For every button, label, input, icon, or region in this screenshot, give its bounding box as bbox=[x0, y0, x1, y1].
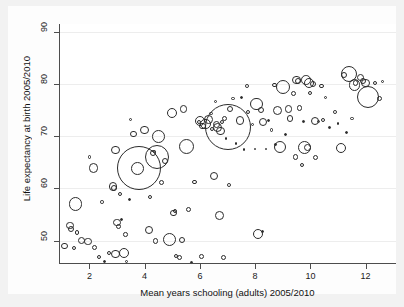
y-tick-label-60: 60 bbox=[39, 178, 49, 188]
data-point bbox=[240, 96, 243, 99]
data-point bbox=[317, 120, 320, 123]
data-point bbox=[285, 105, 293, 113]
data-point bbox=[215, 211, 224, 220]
chart-screenshot: 5060708090 24681012 Life expectancy at b… bbox=[0, 0, 404, 307]
data-point bbox=[111, 146, 119, 154]
data-point bbox=[116, 224, 122, 230]
x-tick-label-4: 4 bbox=[133, 271, 157, 281]
data-point bbox=[308, 91, 312, 95]
data-point bbox=[300, 163, 304, 167]
data-point bbox=[236, 116, 244, 124]
data-point bbox=[267, 119, 270, 122]
data-point bbox=[68, 226, 74, 232]
data-point bbox=[336, 143, 346, 153]
data-point bbox=[153, 238, 158, 243]
data-point bbox=[313, 155, 318, 160]
y-tick-label-90: 90 bbox=[39, 22, 49, 32]
x-tick-2 bbox=[89, 264, 90, 269]
data-point bbox=[145, 145, 169, 169]
data-point bbox=[274, 141, 286, 153]
data-point bbox=[186, 207, 191, 212]
y-tick-80 bbox=[54, 84, 59, 85]
data-point bbox=[295, 78, 301, 84]
data-point bbox=[319, 84, 324, 89]
data-point bbox=[276, 80, 290, 94]
data-point bbox=[163, 233, 176, 246]
x-tick-8 bbox=[255, 264, 256, 269]
data-point bbox=[381, 80, 384, 83]
data-point bbox=[123, 232, 128, 237]
gridline-y-90 bbox=[59, 32, 396, 33]
data-point bbox=[129, 118, 132, 121]
data-point bbox=[265, 148, 268, 151]
data-point bbox=[345, 131, 348, 134]
data-point bbox=[377, 96, 382, 101]
data-point bbox=[310, 81, 316, 87]
data-point bbox=[270, 128, 274, 132]
data-point bbox=[179, 139, 194, 154]
data-point bbox=[221, 255, 226, 260]
data-point bbox=[235, 142, 238, 145]
y-tick-70 bbox=[54, 136, 59, 137]
x-tick-4 bbox=[145, 264, 146, 269]
y-tick-50 bbox=[54, 241, 59, 242]
x-tick-12 bbox=[366, 264, 367, 269]
data-point bbox=[291, 91, 296, 96]
data-point bbox=[148, 195, 152, 199]
y-axis-line bbox=[59, 24, 60, 264]
data-point bbox=[251, 123, 254, 126]
data-point bbox=[293, 154, 298, 159]
data-point bbox=[118, 192, 122, 196]
data-point bbox=[210, 172, 218, 180]
data-point bbox=[119, 248, 129, 258]
data-point bbox=[111, 185, 117, 191]
gridline-y-80 bbox=[59, 84, 396, 85]
y-tick-60 bbox=[54, 188, 59, 189]
data-point bbox=[75, 230, 80, 235]
x-tick-6 bbox=[200, 264, 201, 269]
x-tick-label-12: 12 bbox=[354, 271, 378, 281]
data-point bbox=[259, 118, 267, 126]
data-point bbox=[72, 246, 76, 250]
data-point bbox=[297, 105, 302, 110]
x-tick-label-8: 8 bbox=[243, 271, 267, 281]
data-point bbox=[130, 131, 136, 137]
data-point bbox=[273, 106, 282, 115]
data-point bbox=[214, 100, 217, 103]
x-tick-label-2: 2 bbox=[77, 271, 101, 281]
gridline-y-50 bbox=[59, 241, 396, 242]
x-tick-10 bbox=[310, 264, 311, 269]
x-axis-title: Mean years schooling (adults) 2005/2010 bbox=[59, 287, 396, 298]
data-point bbox=[69, 197, 82, 210]
figure-canvas: 5060708090 24681012 Life expectancy at b… bbox=[8, 6, 396, 294]
data-point bbox=[100, 200, 104, 204]
data-point bbox=[159, 180, 164, 185]
data-point bbox=[328, 126, 331, 129]
data-point bbox=[357, 86, 379, 108]
y-tick-90 bbox=[54, 32, 59, 33]
data-point bbox=[84, 238, 91, 245]
data-point bbox=[152, 130, 165, 143]
plot-inner bbox=[59, 24, 396, 264]
data-point bbox=[324, 96, 327, 99]
data-point bbox=[162, 158, 168, 164]
data-point bbox=[333, 110, 337, 114]
data-point bbox=[167, 108, 177, 118]
data-point bbox=[145, 226, 153, 234]
data-point bbox=[177, 255, 182, 260]
y-tick-label-70: 70 bbox=[39, 126, 49, 136]
data-point bbox=[258, 107, 264, 113]
data-point bbox=[261, 230, 264, 233]
data-point bbox=[107, 251, 111, 255]
data-point bbox=[180, 105, 188, 113]
data-point bbox=[302, 120, 305, 123]
x-tick-label-6: 6 bbox=[188, 271, 212, 281]
data-point bbox=[337, 122, 340, 125]
data-point bbox=[350, 117, 354, 121]
data-point bbox=[287, 115, 293, 121]
data-point bbox=[231, 97, 234, 100]
data-point bbox=[179, 237, 185, 243]
plot-area bbox=[59, 24, 396, 264]
data-point bbox=[246, 110, 250, 114]
data-point bbox=[140, 126, 149, 135]
